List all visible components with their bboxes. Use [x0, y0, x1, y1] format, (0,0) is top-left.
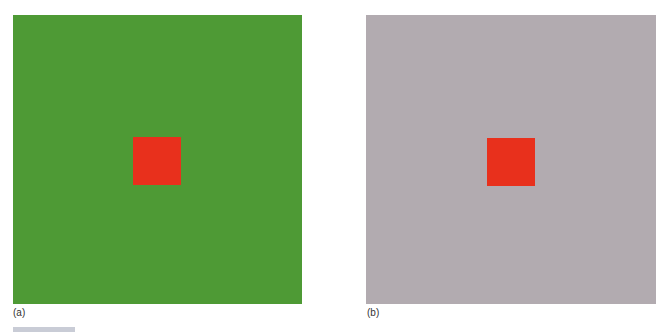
caption-figure-number-bar	[13, 327, 75, 332]
panel-a-red-square	[133, 137, 181, 185]
panel-b-gray-background	[366, 15, 656, 304]
figure: (a) (b)	[0, 0, 670, 332]
panel-a-green-background	[13, 15, 302, 304]
panel-a-label: (a)	[13, 307, 25, 319]
panel-b-label: (b)	[367, 307, 379, 319]
figure-caption-cropped	[13, 327, 75, 332]
panel-b-red-square	[487, 138, 535, 186]
